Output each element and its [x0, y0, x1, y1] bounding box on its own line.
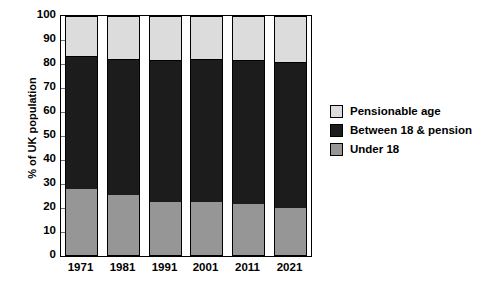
bar-segment-under-18[interactable] — [190, 202, 223, 256]
bar-segment-pensionable-age[interactable] — [65, 16, 98, 56]
y-axis-tick-label: 90 — [4, 33, 56, 44]
y-axis-tick-label: 30 — [4, 177, 56, 188]
bar-segment-pensionable-age[interactable] — [107, 16, 140, 59]
legend-item-label: Pensionable age — [350, 105, 441, 117]
legend-swatch-icon — [330, 143, 343, 156]
bar-2011[interactable] — [232, 16, 265, 256]
plot-area — [60, 15, 312, 257]
x-axis-tick-label-2021: 2021 — [260, 261, 320, 273]
legend-item[interactable]: Pensionable age — [330, 102, 490, 120]
bar-segment-between-18-and-pension[interactable] — [274, 62, 307, 208]
legend: Pensionable ageBetween 18 & pensionUnder… — [330, 102, 490, 159]
bar-segment-pensionable-age[interactable] — [149, 16, 182, 60]
y-axis-tick-label: 80 — [4, 57, 56, 68]
bar-segment-pensionable-age[interactable] — [190, 16, 223, 59]
bar-segment-under-18[interactable] — [232, 204, 265, 256]
y-axis-tick-label: 60 — [4, 105, 56, 116]
bar-segment-under-18[interactable] — [107, 195, 140, 256]
y-axis-tick-label: 40 — [4, 153, 56, 164]
stacked-bar-chart: % of UK population 010203040506070809010… — [0, 0, 493, 295]
y-axis-tick-label: 10 — [4, 225, 56, 236]
legend-swatch-icon — [330, 105, 343, 118]
bar-segment-between-18-and-pension[interactable] — [190, 59, 223, 202]
bar-1971[interactable] — [65, 16, 98, 256]
bar-segment-between-18-and-pension[interactable] — [107, 59, 140, 195]
bar-1981[interactable] — [107, 16, 140, 256]
y-axis-tick-label: 70 — [4, 81, 56, 92]
bar-segment-between-18-and-pension[interactable] — [149, 60, 182, 202]
bar-2001[interactable] — [190, 16, 223, 256]
bar-2021[interactable] — [274, 16, 307, 256]
bar-segment-under-18[interactable] — [149, 202, 182, 256]
y-axis-tick-label: 20 — [4, 201, 56, 212]
bar-segment-under-18[interactable] — [65, 189, 98, 256]
bar-segment-under-18[interactable] — [274, 208, 307, 256]
y-axis-tick-label: 50 — [4, 129, 56, 140]
bar-1991[interactable] — [149, 16, 182, 256]
bars-container — [61, 16, 311, 256]
bar-segment-between-18-and-pension[interactable] — [65, 56, 98, 189]
bar-segment-pensionable-age[interactable] — [232, 16, 265, 60]
legend-item[interactable]: Between 18 & pension — [330, 121, 490, 139]
legend-item-label: Under 18 — [350, 143, 399, 155]
y-axis-tick-label: 0 — [4, 249, 56, 260]
y-axis-tick-label: 100 — [4, 9, 56, 20]
legend-item-label: Between 18 & pension — [350, 124, 472, 136]
bar-segment-pensionable-age[interactable] — [274, 16, 307, 62]
y-axis-tick-labels: 0102030405060708090100 — [0, 15, 56, 255]
legend-swatch-icon — [330, 124, 343, 137]
bar-segment-between-18-and-pension[interactable] — [232, 60, 265, 204]
legend-item[interactable]: Under 18 — [330, 140, 490, 158]
